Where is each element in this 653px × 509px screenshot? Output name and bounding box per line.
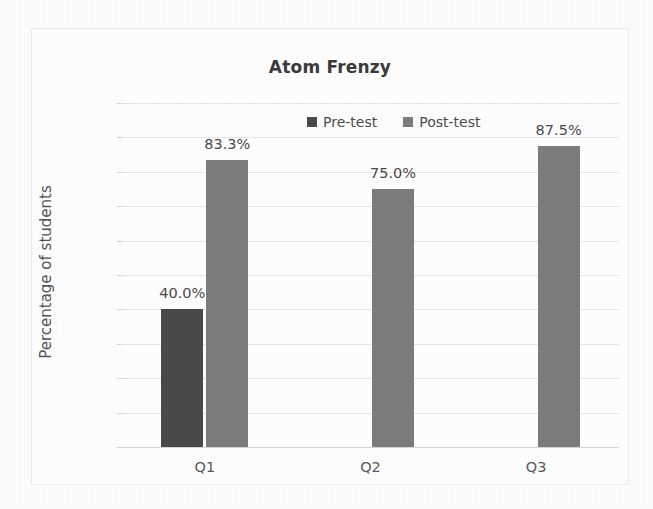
- x-axis-tick-label-q3: Q3: [496, 459, 576, 475]
- y-axis-tick-mark: [117, 206, 122, 207]
- y-axis-tick-mark: [117, 378, 122, 379]
- bar-q3-post-test[interactable]: [538, 146, 580, 447]
- legend-item-pre-test[interactable]: Pre-test: [307, 114, 377, 130]
- y-axis-tick-mark: [117, 413, 122, 414]
- x-axis-tick-label-q2: Q2: [331, 459, 411, 475]
- bar-data-label: 83.3%: [193, 136, 261, 152]
- x-axis-tick-label-q1: Q1: [165, 459, 245, 475]
- plot-area: 100.0%90.0%80.0%70.0%60.0%50.0%40.0%30.0…: [122, 103, 619, 447]
- legend-label-post-test: Post-test: [419, 114, 480, 130]
- y-axis-tick-mark: [117, 172, 122, 173]
- y-axis-tick-mark: [117, 103, 122, 104]
- gridline: [122, 447, 619, 448]
- bar-q2-post-test[interactable]: [372, 189, 414, 447]
- y-axis-tick-mark: [117, 309, 122, 310]
- legend-item-post-test[interactable]: Post-test: [403, 114, 480, 130]
- y-axis-tick-mark: [117, 344, 122, 345]
- bar-q1-pre-test[interactable]: [161, 309, 203, 447]
- y-axis-tick-mark: [117, 275, 122, 276]
- y-axis-title: Percentage of students: [37, 157, 55, 387]
- chart-title: Atom Frenzy: [31, 57, 629, 77]
- bar-q1-post-test[interactable]: [206, 160, 248, 447]
- gridline: [122, 103, 619, 104]
- legend-label-pre-test: Pre-test: [323, 114, 377, 130]
- legend-swatch-pre-test: [307, 117, 317, 127]
- legend-swatch-post-test: [403, 117, 413, 127]
- y-axis-tick-mark: [117, 241, 122, 242]
- y-axis-tick-mark: [117, 447, 122, 448]
- bar-data-label: 87.5%: [525, 122, 593, 138]
- bar-data-label: 40.0%: [148, 285, 216, 301]
- bar-data-label: 75.0%: [359, 165, 427, 181]
- chart-legend: Pre-test Post-test: [307, 114, 480, 130]
- chart-container: Atom Frenzy Percentage of students 100.0…: [0, 0, 653, 509]
- y-axis-tick-mark: [117, 137, 122, 138]
